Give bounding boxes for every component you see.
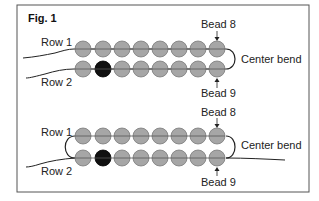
center-bend-label: Center bend	[241, 139, 302, 151]
row1-label: Row 1	[41, 36, 72, 48]
row2-label: Row 2	[41, 165, 72, 177]
bead9-label: Bead 9	[201, 87, 236, 99]
figure-title: Fig. 1	[28, 12, 57, 24]
row2-label: Row 2	[41, 76, 72, 88]
bead8-label: Bead 8	[201, 106, 236, 118]
bead8-label: Bead 8	[201, 18, 236, 30]
beading-diagram: Fig. 1	[0, 0, 319, 201]
center-bend-label: Center bend	[241, 53, 302, 65]
row1-label: Row 1	[41, 126, 72, 138]
bead9-label: Bead 9	[201, 176, 236, 188]
